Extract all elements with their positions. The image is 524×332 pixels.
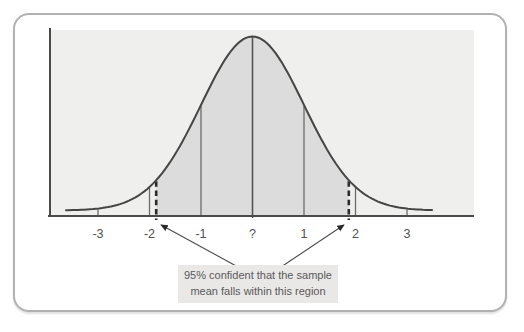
x-tick-label--3: -3 (92, 227, 103, 241)
x-tick-label-1: 1 (301, 227, 308, 241)
x-tick-label-2: 2 (352, 227, 359, 241)
annotation-line-1: 95% confident that the sample (184, 268, 332, 284)
x-tick-label-3: 3 (404, 227, 411, 241)
x-tick-label--1: -1 (195, 227, 206, 241)
annotation-arrow-right (281, 225, 344, 267)
x-tick-label--2: -2 (144, 227, 155, 241)
confidence-annotation: 95% confident that the sample mean falls… (178, 265, 338, 303)
x-tick-label-0: ? (249, 227, 256, 241)
annotation-line-2: mean falls within this region (190, 284, 325, 300)
figure: -3-2-1?123 95% confident that the sample… (0, 0, 524, 332)
